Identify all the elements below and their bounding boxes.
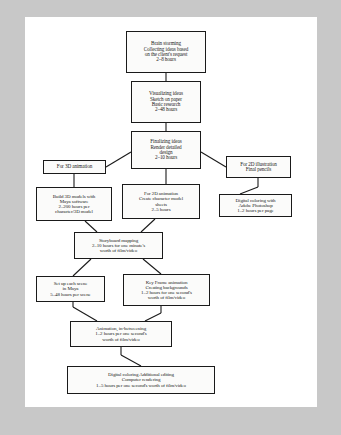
node-line: 2–5 hours xyxy=(152,207,171,212)
connector-setupscene-inbetween-d xyxy=(73,307,97,321)
node-line: 1–5 hours per one second's worth of film… xyxy=(96,383,186,388)
connector-finalizing-for2dillustration xyxy=(201,152,226,167)
node-key-frame-animation: Key Frame animation Creating backgrounds… xyxy=(123,274,210,306)
node-for-2d-illustration: For 2D illustration Final pencils xyxy=(226,156,291,178)
connector-for2danim-storyboard xyxy=(141,219,155,232)
connector-finalizing-for3d xyxy=(106,152,131,167)
node-line: worth of film/video xyxy=(100,248,137,253)
node-visualizing-ideas: Visualizing ideas Sketch on paper Basic … xyxy=(131,81,201,123)
node-animation-in-betweening: Animation, in-betweening 1–2 hours per o… xyxy=(70,321,172,347)
node-for-2d-animation: For 2D animation Create character model … xyxy=(122,184,200,219)
connector-build3d-storyboard xyxy=(85,221,97,232)
connector-for2dill-digitalcoloring-d xyxy=(240,187,258,194)
connector-keyframe-inbetween-d xyxy=(145,313,161,321)
node-storyboard-mapping: Storyboard mapping 2–10 hours for one mi… xyxy=(74,232,163,259)
document-page: Brain storming Collecting ideas based on… xyxy=(25,17,317,407)
node-digital-coloring-final: Digital coloring Additional editing Comp… xyxy=(67,366,215,394)
node-build-3d-models: Build 3D models with Maya software 2–200… xyxy=(36,187,112,221)
connector-storyboard-keyframe xyxy=(143,259,161,274)
node-line: 1–2 hours per page xyxy=(237,208,273,213)
node-line: 2–8 hours xyxy=(156,57,176,62)
node-line: worth of film/video xyxy=(148,295,185,300)
connector-inbetween-digfinal-d xyxy=(121,355,141,366)
connector-storyboard-setupscene xyxy=(73,259,91,276)
node-set-up-each-scene: Set up each scene in Maya 5–48 hours per… xyxy=(36,276,105,302)
node-line: character/3D model xyxy=(55,209,93,214)
node-brain-storming: Brain storming Collecting ideas based on… xyxy=(126,31,206,73)
node-digital-coloring-photoshop: Digital coloring with Adobe Photoshop 1–… xyxy=(219,194,292,217)
node-finalizing-ideas: Finalizing ideas Render detailed design … xyxy=(131,131,201,169)
node-line: Final pencils xyxy=(246,167,271,172)
node-line: 2–48 hours xyxy=(155,107,177,112)
node-line: For 3D animation xyxy=(57,164,92,169)
node-line: 2–10 hours xyxy=(155,155,177,160)
node-for-3d-animation: For 3D animation xyxy=(43,160,106,174)
node-line: worth of film/video xyxy=(102,337,139,342)
node-line: 5–48 hours per scene xyxy=(50,292,90,297)
